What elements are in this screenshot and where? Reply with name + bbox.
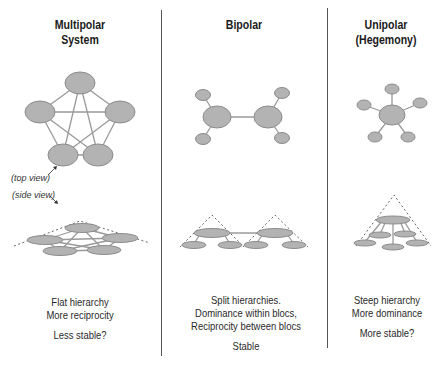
multipolar-caption: Flat hierarchy More reciprocity Less sta…	[26, 296, 134, 342]
unipolar-stability: More stable?	[341, 327, 433, 340]
bipolar-stability: Stable	[183, 340, 309, 353]
node-top	[65, 72, 95, 94]
bipolar-caption-line1: Split hierarchies.	[183, 294, 309, 307]
view-label-arrows	[48, 166, 58, 204]
multipolar-caption-line1: Flat hierarchy	[26, 296, 134, 309]
node-bottom-right	[83, 144, 113, 166]
multipolar-stability: Less stable?	[26, 329, 134, 342]
node-left	[25, 101, 55, 123]
bipolar-caption-line3: Reciprocity between blocs	[183, 320, 309, 333]
unipolar-side-view	[354, 195, 431, 250]
unipolar-caption-line1: Steep hierarchy	[341, 294, 433, 307]
node-right	[105, 101, 135, 123]
multipolar-caption-line2: More reciprocity	[26, 309, 134, 322]
multipolar-top-view	[25, 72, 135, 166]
node-bottom-left	[48, 144, 78, 166]
polarity-diagram: Multipolar System Bipolar Unipolar (Hege…	[0, 0, 438, 369]
unipolar-caption-line2: More dominance	[341, 307, 433, 320]
bipolar-caption: Split hierarchies. Dominance within bloc…	[183, 294, 309, 353]
unipolar-top-view	[357, 84, 427, 142]
multipolar-side-view	[14, 221, 150, 256]
unipolar-caption: Steep hierarchy More dominance More stab…	[341, 294, 433, 340]
bipolar-top-view	[196, 88, 290, 145]
bipolar-side-view	[180, 215, 308, 249]
bipolar-caption-line2: Dominance within blocs,	[183, 307, 309, 320]
